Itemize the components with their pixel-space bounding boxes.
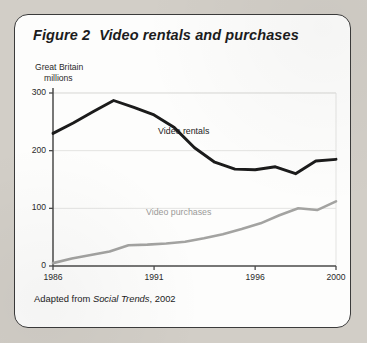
y-axis-tick-label: 0 [41, 260, 46, 270]
y-axis-tick-label: 100 [32, 202, 46, 212]
figure-page: Figure 2Video rentals and purchases Grea… [0, 0, 367, 343]
figure-caption: Adapted from Social Trends, 2002 [34, 293, 176, 304]
x-axis-tick-label: 1986 [31, 272, 75, 282]
axis-ticks [49, 93, 336, 270]
caption-prefix: Adapted from [34, 293, 93, 304]
x-axis-tick-label: 1996 [233, 272, 277, 282]
figure-card: Figure 2Video rentals and purchases Grea… [14, 14, 351, 328]
series-label-video-rentals: Video rentals [158, 126, 209, 136]
caption-source: Social Trends [93, 293, 150, 304]
series-label-video-purchases: Video purchases [146, 207, 211, 217]
x-axis-tick-label: 2000 [314, 272, 358, 282]
y-axis-tick-label: 200 [32, 145, 46, 155]
x-axis-tick-label: 1991 [132, 272, 176, 282]
y-axis-tick-label: 300 [32, 87, 46, 97]
caption-suffix: , 2002 [150, 293, 176, 304]
chart-plot-area: 01002003001986199119962000 Video rentals… [15, 15, 352, 329]
series-video-rentals [53, 101, 336, 174]
